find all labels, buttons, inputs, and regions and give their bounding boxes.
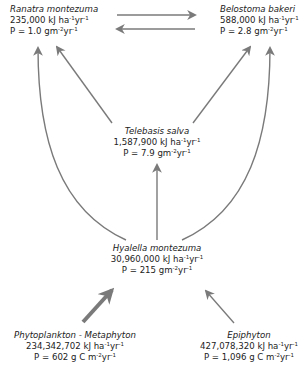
node-production: P = 7.9 gm-2yr-1 bbox=[97, 148, 217, 159]
node-belostoma: Belostoma bakeri 588,000 kJ ha-1yr-1 P =… bbox=[220, 4, 299, 38]
node-name: Belostoma bakeri bbox=[220, 4, 299, 15]
node-name: Phytoplankton - Metaphyton bbox=[0, 330, 150, 341]
node-energy: 30,960,000 kJ ha-1yr-1 bbox=[92, 254, 222, 265]
node-energy: 234,342,702 kJ ha-1yr-1 bbox=[0, 341, 150, 352]
food-web-arrows bbox=[0, 0, 308, 374]
node-production: P = 1,096 g C m-2yr-1 bbox=[190, 352, 308, 363]
arrow-epiphyton-to-hyalella bbox=[206, 291, 234, 323]
arrow-telebasis-to-ranatra bbox=[57, 47, 112, 123]
node-name: Hyalella montezuma bbox=[92, 243, 222, 254]
node-production: P = 1.0 gm-2yr-1 bbox=[10, 26, 98, 37]
node-energy: 588,000 kJ ha-1yr-1 bbox=[220, 15, 299, 26]
node-phytoplankton: Phytoplankton - Metaphyton 234,342,702 k… bbox=[0, 330, 150, 364]
node-name: Epiphyton bbox=[190, 330, 308, 341]
node-name: Telebasis salva bbox=[97, 126, 217, 137]
node-name: Ranatra montezuma bbox=[10, 4, 98, 15]
node-epiphyton: Epiphyton 427,078,320 kJ ha-1yr-1 P = 1,… bbox=[190, 330, 308, 364]
arrow-telebasis-to-belostoma bbox=[193, 47, 250, 123]
node-ranatra: Ranatra montezuma 235,000 kJ ha-1yr-1 P … bbox=[10, 4, 98, 38]
node-production: P = 2.8 gm-2yr-1 bbox=[220, 26, 299, 37]
node-energy: 427,078,320 kJ ha-1yr-1 bbox=[190, 341, 308, 352]
arrow-phyto-to-hyalella bbox=[83, 290, 112, 322]
node-production: P = 602 g C m-2yr-1 bbox=[0, 352, 150, 363]
node-energy: 1,587,900 kJ ha-1yr-1 bbox=[97, 137, 217, 148]
node-production: P = 215 gm-2yr-1 bbox=[92, 265, 222, 276]
node-energy: 235,000 kJ ha-1yr-1 bbox=[10, 15, 98, 26]
node-hyalella: Hyalella montezuma 30,960,000 kJ ha-1yr-… bbox=[92, 243, 222, 277]
node-telebasis: Telebasis salva 1,587,900 kJ ha-1yr-1 P … bbox=[97, 126, 217, 160]
